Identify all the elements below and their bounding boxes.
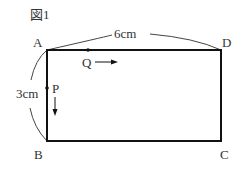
point-q-dot — [86, 48, 90, 52]
point-p-dot — [45, 86, 49, 90]
arrow-right-icon — [111, 60, 118, 65]
vertex-b-label: B — [34, 147, 43, 162]
arrow-down-icon — [53, 109, 58, 116]
point-p-label: P — [52, 81, 59, 96]
point-q-label: Q — [82, 55, 92, 70]
rectangle-diagram: 図1 A D B C 6cm 3cm Q P — [0, 0, 244, 171]
height-arc-bottom — [30, 108, 47, 141]
height-label: 3cm — [16, 86, 38, 101]
height-arc-top — [31, 50, 47, 80]
rectangle-abcd — [47, 50, 221, 141]
width-label: 6cm — [114, 26, 136, 41]
width-arc-left — [47, 35, 112, 50]
width-arc-right — [150, 34, 221, 50]
vertex-a-label: A — [33, 35, 43, 50]
vertex-d-label: D — [222, 35, 231, 50]
vertex-c-label: C — [220, 147, 229, 162]
figure-title: 図1 — [30, 7, 50, 22]
